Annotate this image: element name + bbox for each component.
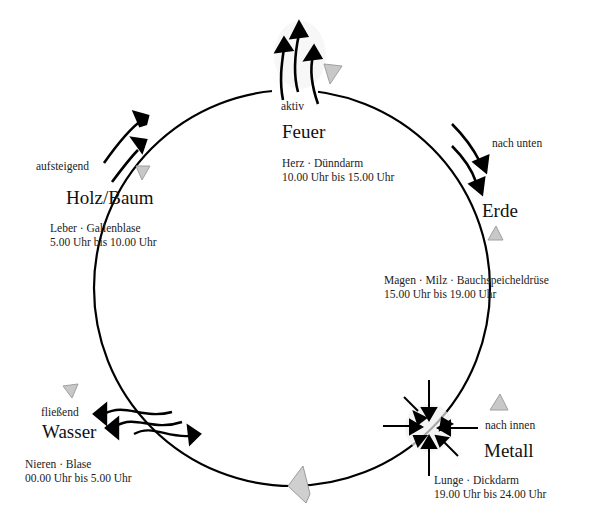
fire-direction-label: aktiv — [281, 100, 304, 112]
metal-arrows-icon — [383, 380, 478, 476]
metal-time-label: 19.00 Uhr bis 24.00 Uhr — [434, 487, 546, 501]
metal-organs-label: Lunge · Dickdarm — [434, 473, 519, 487]
earth-element-title: Erde — [482, 200, 518, 222]
metal-element-title: Metall — [484, 440, 534, 462]
wood-element-title: Holz/Baum — [66, 187, 154, 209]
earth-arrows-icon — [452, 124, 488, 194]
fire-element-title: Feuer — [282, 121, 325, 143]
triangle-icon — [488, 226, 503, 240]
water-element-title: Wasser — [42, 421, 96, 443]
wood-direction-label: aufsteigend — [36, 160, 89, 172]
wood-organs-label: Leber · Gallenblase — [50, 221, 141, 235]
metal-direction-label: nach innen — [485, 419, 535, 431]
water-organs-label: Nieren · Blase — [25, 457, 91, 471]
earth-direction-label: nach unten — [492, 137, 542, 149]
triangle-icon — [288, 466, 310, 503]
water-direction-label: fließend — [41, 406, 79, 418]
fire-organs-label: Herz · Dünndarm — [282, 156, 363, 170]
water-time-label: 00.00 Uhr bis 5.00 Uhr — [25, 471, 132, 485]
triangle-icon — [490, 394, 508, 410]
triangle-icon — [63, 384, 78, 398]
earth-organs-label: Magen · Milz · Bauchspeicheldrüse — [384, 273, 549, 287]
fire-time-label: 10.00 Uhr bis 15.00 Uhr — [282, 170, 394, 184]
earth-time-label: 15.00 Uhr bis 19.00 Uhr — [384, 287, 496, 301]
wood-time-label: 5.00 Uhr bis 10.00 Uhr — [50, 235, 157, 249]
triangle-icon — [324, 64, 342, 84]
triangle-icon — [136, 166, 150, 180]
